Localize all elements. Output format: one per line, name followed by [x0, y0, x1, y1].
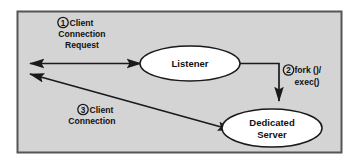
step-1-line1: Client — [70, 18, 94, 28]
node-listener-label: Listener — [172, 58, 209, 69]
step-3-line1: Client — [90, 105, 114, 115]
step-1-line2: Connection — [58, 29, 105, 39]
connection-diagram: Listener Dedicated Server 1 Client Conne… — [0, 0, 360, 168]
step-2-line1: fork ()/ — [295, 65, 322, 75]
step-3-number: 3 — [81, 106, 86, 115]
node-dedicated-server[interactable] — [222, 109, 322, 147]
step-1-line3: Request — [65, 40, 99, 50]
step-1-number: 1 — [61, 19, 66, 28]
step-2-number: 2 — [286, 66, 291, 75]
node-dedicated-server-label-line2: Server — [257, 129, 287, 140]
step-3-line2: Connection — [68, 116, 115, 126]
figure-root: Listener Dedicated Server 1 Client Conne… — [0, 0, 360, 168]
node-dedicated-server-label-line1: Dedicated — [249, 117, 295, 128]
step-2-line2: exec() — [295, 77, 320, 87]
